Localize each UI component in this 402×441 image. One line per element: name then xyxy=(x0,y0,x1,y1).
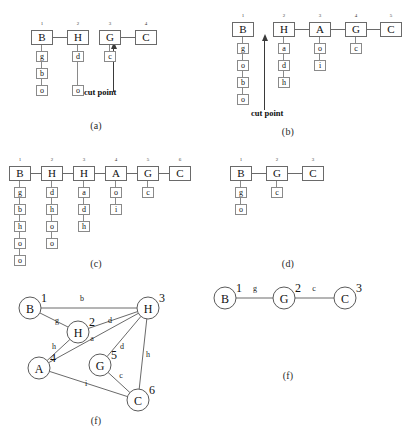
graph-edge-label-2-3: d xyxy=(108,316,112,325)
node-head-b-4: G xyxy=(345,22,367,37)
chain-item-b-2-0: a xyxy=(278,43,290,54)
chain-column-d-2: 2 G c xyxy=(266,166,288,198)
graph-edge-label-1-3: b xyxy=(80,294,84,303)
node-head-a-2: H xyxy=(67,30,89,45)
panel-b: 1 B g o b o cut point 2 H xyxy=(192,0,384,145)
node-head-c-4: A xyxy=(105,166,127,181)
chain-item-b-3-0: o xyxy=(314,43,326,54)
chain-item-c-3-2: h xyxy=(78,221,90,232)
chain-item-b-2-1: d xyxy=(278,60,290,71)
node-index-d-3: 3 xyxy=(312,157,315,163)
graph-node-H-3[interactable]: H3 xyxy=(137,291,165,319)
chain-item-c-1-1: b xyxy=(14,204,26,215)
node-head-a-1: B xyxy=(31,30,53,45)
graph-node-index: 3 xyxy=(356,281,362,295)
panel-f: gc B1G2C3 (f) xyxy=(192,275,384,441)
head-link-b-2-3 xyxy=(295,29,309,30)
graph-node-label: H xyxy=(74,326,83,340)
graph-node-label: B xyxy=(221,292,229,306)
graph-edge-label-5-3: d xyxy=(120,342,124,351)
graph-node-G-5[interactable]: G5 xyxy=(89,348,117,376)
node-index-d-2: 2 xyxy=(276,157,279,163)
node-head-c-5: G xyxy=(137,166,159,181)
chain-item-c-3-0: a xyxy=(78,187,90,198)
graph-node-A-4[interactable]: A4 xyxy=(28,351,56,379)
head-link-c-3-4 xyxy=(95,173,105,174)
chain-link xyxy=(77,62,78,85)
chain-column-b-2: 2 H a d h xyxy=(273,22,295,88)
node-index-a-2: 2 xyxy=(77,21,80,27)
node-head-c-2: H xyxy=(41,166,63,181)
chain-column-a-4: 4 C xyxy=(135,30,157,45)
chain-item-c-2-3: o xyxy=(46,238,58,249)
graph-diagram-e: bgdhadhci B1H2H3A4G5C6 xyxy=(0,275,192,420)
chain-item-c-5-0: c xyxy=(142,187,154,198)
chain-item-b-1-3: o xyxy=(237,94,249,105)
node-head-d-3: C xyxy=(302,166,324,181)
chain-item-c-2-1: h xyxy=(46,204,58,215)
graph-node-C-6[interactable]: C6 xyxy=(127,383,155,411)
arrow-shaft xyxy=(264,40,265,110)
graph-node-index: 6 xyxy=(149,383,155,397)
chain-diagram-c: 1 B g b h o o 2 H d h xyxy=(0,145,192,275)
node-head-b-2: H xyxy=(273,22,295,37)
chain-item-b-2-2: h xyxy=(278,77,290,88)
graph-node-label: B xyxy=(26,302,34,316)
chain-item-c-1-3: o xyxy=(14,238,26,249)
chain-item-d-1-1: o xyxy=(235,204,247,215)
graph-edge-label-4-2: h xyxy=(52,342,56,351)
cut-point-label-a: cut point xyxy=(84,87,116,97)
node-head-b-1: B xyxy=(232,22,254,37)
graph-node-index: 2 xyxy=(89,315,95,329)
graph-edge-label-1-2: g xyxy=(55,316,59,325)
chain-column-b-5: 5 C xyxy=(380,22,402,37)
graph-node-index: 3 xyxy=(159,291,165,305)
node-index-c-2: 2 xyxy=(51,157,54,163)
graph-node-label: G xyxy=(280,292,289,306)
node-head-c-1: B xyxy=(9,166,31,181)
chain-diagram-b: 1 B g o b o cut point 2 H xyxy=(192,0,384,145)
chain-item-b-1-1: o xyxy=(237,60,249,71)
node-head-a-4: C xyxy=(135,30,157,45)
chain-item-a-1-1: b xyxy=(36,68,48,79)
chain-item-c-1-2: h xyxy=(14,221,26,232)
panel-c: 1 B g b h o o 2 H d h xyxy=(0,145,192,275)
graph-edge-label-2-3: c xyxy=(312,284,316,293)
node-head-c-3: H xyxy=(73,166,95,181)
graph-node-C-3[interactable]: C3 xyxy=(334,281,362,309)
graph-edge-label-4-3: a xyxy=(90,334,94,343)
node-index-c-4: 4 xyxy=(115,157,118,163)
node-index-a-3: 3 xyxy=(109,21,112,27)
chain-item-a-3-0: c xyxy=(104,51,116,62)
node-head-b-5: C xyxy=(380,22,402,37)
chain-column-c-6: 6 C xyxy=(169,166,191,181)
node-head-c-6: C xyxy=(169,166,191,181)
node-head-d-1: B xyxy=(230,166,252,181)
chain-item-a-1-0: g xyxy=(36,51,48,62)
node-index-c-1: 1 xyxy=(19,157,22,163)
node-index-a-4: 4 xyxy=(145,21,148,27)
chain-item-b-1-2: b xyxy=(237,77,249,88)
node-index-b-4: 4 xyxy=(355,13,358,19)
node-index-b-2: 2 xyxy=(283,13,286,19)
chain-column-c-5: 5 G c xyxy=(137,166,159,198)
chain-column-d-3: 3 C xyxy=(302,166,324,181)
chain-column-c-1: 1 B g b h o o xyxy=(9,166,31,266)
graph-node-B-1[interactable]: B1 xyxy=(214,281,242,309)
caption-b: (b) xyxy=(192,126,384,137)
head-link-c-5-6 xyxy=(159,173,169,174)
node-index-b-1: 1 xyxy=(242,13,245,19)
caption-a: (a) xyxy=(0,120,192,131)
head-link-b-3-4 xyxy=(331,29,345,30)
node-head-d-2: G xyxy=(266,166,288,181)
node-index-b-3: 3 xyxy=(319,13,322,19)
caption-f: (f) xyxy=(192,370,384,381)
chain-item-c-2-2: o xyxy=(46,221,58,232)
graph-node-G-2[interactable]: G2 xyxy=(273,281,301,309)
graph-node-label: A xyxy=(35,362,44,376)
graph-node-index: 1 xyxy=(41,291,47,305)
graph-node-index: 5 xyxy=(111,348,117,362)
chain-item-a-2-0: d xyxy=(72,51,84,62)
chain-item-d-1-0: g xyxy=(235,187,247,198)
